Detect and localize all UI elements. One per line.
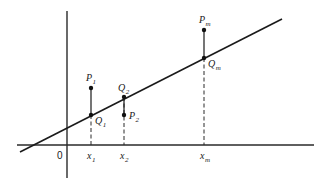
- regression-diagram: 0 P1Q1Q2P2PmQm x1x2xm: [0, 0, 329, 185]
- point-qm: [202, 56, 206, 60]
- label-qm: Qm: [208, 58, 221, 72]
- label-q2: Q2: [118, 82, 130, 96]
- x-axis-tick-labels: x1x2xm: [86, 150, 210, 164]
- label-pm: Pm: [198, 14, 211, 28]
- data-points: [89, 28, 206, 117]
- origin-label: 0: [57, 150, 63, 161]
- axes: 0: [17, 11, 314, 178]
- label-q1: Q1: [95, 115, 106, 129]
- point-p1: [89, 86, 93, 90]
- tick-label-x2: x2: [119, 150, 129, 164]
- point-q1: [89, 113, 93, 117]
- point-labels: P1Q1Q2P2PmQm: [85, 14, 221, 129]
- label-p1: P1: [85, 72, 96, 86]
- point-p2: [122, 113, 126, 117]
- fitted-line: [20, 19, 282, 152]
- regression-line: [20, 19, 282, 152]
- diagram-svg: 0 P1Q1Q2P2PmQm x1x2xm: [0, 0, 329, 185]
- tick-label-x1: x1: [86, 150, 95, 164]
- label-p2: P2: [128, 110, 140, 124]
- point-pm: [202, 28, 206, 32]
- tick-label-xm: xm: [199, 150, 210, 164]
